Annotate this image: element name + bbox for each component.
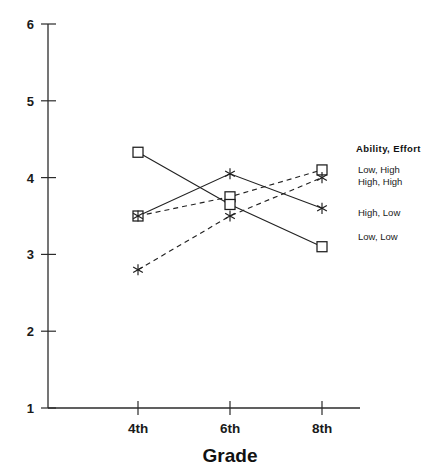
legend-entry-high-low: High, Low	[358, 207, 400, 218]
legend-entry-low-low: Low, Low	[358, 231, 398, 242]
y-tick-label-1: 1	[27, 401, 34, 416]
legend: Ability, Effort Low, High High, High Hig…	[356, 143, 421, 242]
x-axis-tick-labels: 4th 6th 8th	[128, 421, 332, 436]
x-axis-title: Grade	[203, 445, 258, 466]
series-layer	[133, 147, 327, 275]
y-tick-label-4: 4	[27, 171, 35, 186]
y-tick-label-6: 6	[27, 17, 34, 32]
y-tick-label-3: 3	[27, 247, 34, 262]
legend-entry-low-high: Low, High	[358, 164, 400, 175]
datapoint-high-high-6th	[225, 210, 235, 221]
y-tick-label-2: 2	[27, 324, 34, 339]
y-axis-tick-labels: 6 5 4 3 2 1	[27, 17, 35, 416]
datapoint-low-low-6th	[225, 199, 235, 209]
chart-canvas: 6 5 4 3 2 1 4th 6th 8th Grade Ability, E…	[0, 0, 438, 470]
datapoint-low-low-8th	[317, 242, 327, 252]
x-tick-label-8th: 8th	[312, 421, 332, 436]
datapoint-high-low-8th	[317, 203, 327, 214]
legend-title: Ability, Effort	[356, 143, 421, 154]
datapoint-high-low-6th	[225, 168, 235, 179]
x-tick-label-4th: 4th	[128, 421, 148, 436]
datapoint-high-high-4th	[133, 264, 143, 275]
x-tick-label-6th: 6th	[220, 421, 240, 436]
y-tick-label-5: 5	[27, 94, 34, 109]
legend-entry-high-high: High, High	[358, 176, 402, 187]
datapoint-low-low-4th	[133, 147, 143, 157]
